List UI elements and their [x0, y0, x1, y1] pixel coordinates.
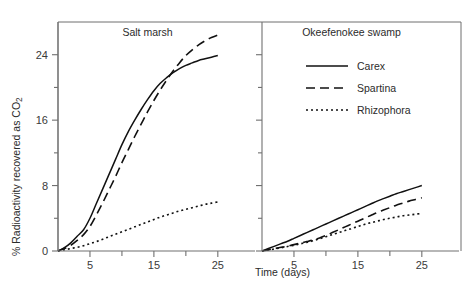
panel-title-okeefenokee-swamp: Okeefenokee swamp [302, 26, 401, 38]
x-tick-label-15-okeefenokee-swamp: 15 [352, 259, 364, 271]
x-tick-label-25-salt-marsh: 25 [212, 259, 224, 271]
x-tick-label-15-salt-marsh: 15 [148, 259, 160, 271]
legend-label-rhizophora: Rhizophora [357, 104, 411, 116]
legend-label-carex: Carex [357, 60, 386, 72]
y-axis-title-subscript: 2 [15, 97, 24, 102]
chart-svg: Salt marsh 08162451525 Okeefenokee swamp… [0, 0, 476, 288]
panel-title-salt-marsh: Salt marsh [122, 26, 172, 38]
y-axis-title-main: % Radioactivity recovered as CO [10, 102, 22, 256]
x-tick-label-5-salt-marsh: 5 [87, 259, 93, 271]
x-axis-title: Time (days) [255, 266, 310, 278]
x-tick-label-25-okeefenokee-swamp: 25 [416, 259, 428, 271]
y-tick-label-8: 8 [42, 180, 48, 192]
y-tick-label-24: 24 [36, 49, 48, 61]
y-tick-label-0: 0 [42, 245, 48, 257]
figure-container: Salt marsh 08162451525 Okeefenokee swamp… [0, 0, 476, 288]
legend-label-spartina: Spartina [357, 82, 396, 94]
y-tick-label-16: 16 [36, 114, 48, 126]
